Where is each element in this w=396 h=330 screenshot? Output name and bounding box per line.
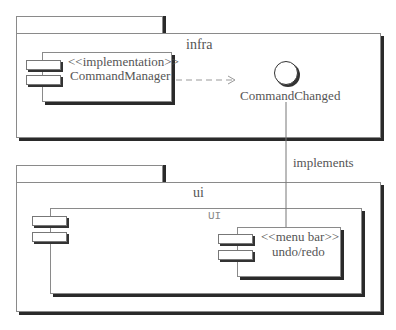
implements-label: implements [293,155,354,171]
